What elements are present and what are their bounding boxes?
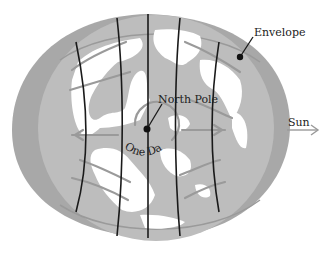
globe <box>38 15 274 241</box>
north-pole-label: North Pole <box>158 93 218 106</box>
envelope-label: Envelope <box>254 26 306 39</box>
sun-label: Sun <box>288 116 310 129</box>
globe-diagram: North Pole One Day Envelope Sun <box>0 0 335 253</box>
